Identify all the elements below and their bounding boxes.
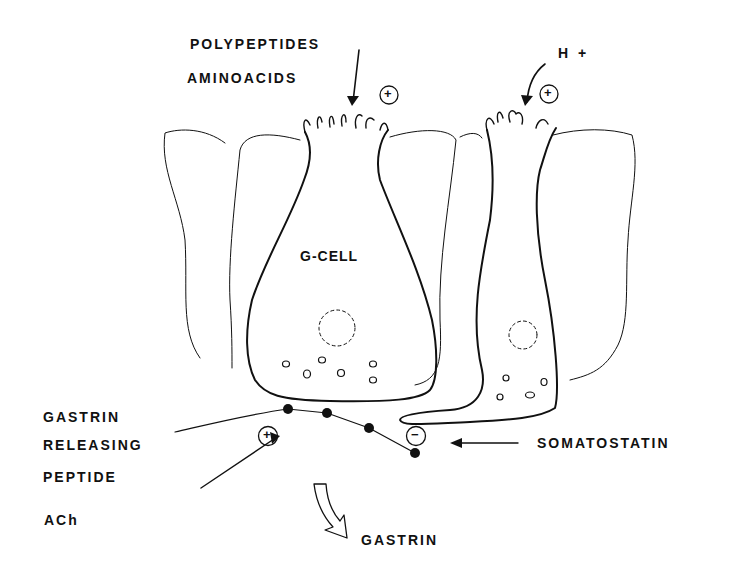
label-somatostatin: SOMATOSTATIN — [537, 435, 670, 451]
plus-sign-luminal: + — [384, 86, 392, 101]
label-grp-line3: PEPTIDE — [43, 469, 117, 485]
label-gastrin-output: GASTRIN — [361, 532, 438, 548]
label-h-plus: H + — [558, 45, 589, 61]
g-cell-granules — [283, 357, 377, 383]
arrow-polypeptides — [353, 50, 359, 102]
d-cell-granules — [497, 375, 547, 400]
gastrin-release-arrow — [314, 484, 347, 538]
g-cell-outline — [247, 130, 436, 401]
g-cell-microvilli — [304, 115, 388, 132]
g-cell-nucleus — [319, 310, 355, 346]
label-aminoacids: AMINOACIDS — [187, 70, 297, 86]
plus-sign-acid: + — [544, 85, 552, 100]
background-cell-mid2 — [460, 133, 482, 138]
background-cell-right — [553, 130, 635, 380]
g-cell-diagram — [0, 0, 742, 571]
label-ach: ACh — [44, 512, 79, 528]
background-cell-left — [164, 130, 225, 358]
nerve-bouton-1 — [283, 404, 293, 414]
nerve-bouton-4 — [410, 448, 420, 458]
label-g-cell: G-CELL — [300, 248, 358, 264]
arrowhead-somatostatin — [450, 438, 462, 448]
label-grp-line1: GASTRIN — [43, 409, 120, 425]
nerve-bouton-3 — [364, 423, 374, 433]
label-polypeptides: POLYPEPTIDES — [190, 36, 320, 52]
plus-sign-grp: + — [263, 427, 271, 442]
d-cell-nucleus — [509, 321, 537, 349]
minus-sign-somatostatin: − — [411, 427, 419, 442]
background-cell-mid — [390, 131, 456, 385]
d-cell-outline — [400, 128, 557, 424]
label-grp-line2: RELEASING — [43, 437, 143, 453]
d-cell-microvilli — [486, 111, 548, 130]
nerve-chain — [288, 409, 415, 453]
arrowhead-h-plus — [521, 95, 533, 106]
background-cell-left2 — [230, 135, 300, 368]
arrowhead-polypeptides — [347, 96, 359, 106]
basement-membrane — [175, 409, 288, 432]
nerve-bouton-2 — [322, 408, 332, 418]
